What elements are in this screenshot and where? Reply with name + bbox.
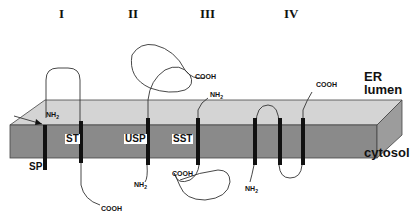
terminus-I-cooh: COOH — [101, 205, 122, 212]
terminus-II-cooh: COOH — [195, 73, 216, 80]
chain-IV-loop2 — [279, 165, 302, 178]
segment-label-USP: USP — [124, 134, 147, 144]
membrane-top-surface — [10, 100, 402, 125]
terminus-III-cooh: COOH — [172, 170, 193, 177]
segment-label-SST: SST — [172, 134, 193, 144]
helix-IV-1 — [253, 118, 257, 165]
terminus-IV-cooh: COOH — [316, 81, 337, 88]
helix-IV-3 — [301, 118, 305, 165]
chain-II-tail — [145, 165, 147, 182]
terminus-III-nh2: NH2 — [210, 91, 223, 100]
terminus-IV-nh2: NH2 — [245, 185, 258, 194]
column-label-I: I — [59, 7, 64, 20]
chain-IV-nterm — [250, 165, 254, 182]
helix-USP — [146, 118, 150, 165]
helix-SST — [196, 118, 200, 165]
region-label-cytosol: cytosol — [364, 146, 410, 159]
terminus-I-nh2: NH2 — [46, 111, 59, 120]
segment-label-SP: SP — [28, 162, 43, 172]
region-label-lumen: lumen — [364, 83, 402, 96]
helix-IV-2 — [278, 118, 282, 165]
column-label-II: II — [128, 7, 138, 20]
column-label-III: III — [200, 7, 215, 20]
helix-SP — [43, 125, 47, 170]
column-label-IV: IV — [284, 7, 298, 20]
terminus-II-nh2: NH2 — [134, 181, 147, 190]
membrane-diagram — [0, 0, 412, 218]
segment-label-ST: ST — [65, 134, 80, 144]
chain-I-tail — [81, 163, 100, 205]
